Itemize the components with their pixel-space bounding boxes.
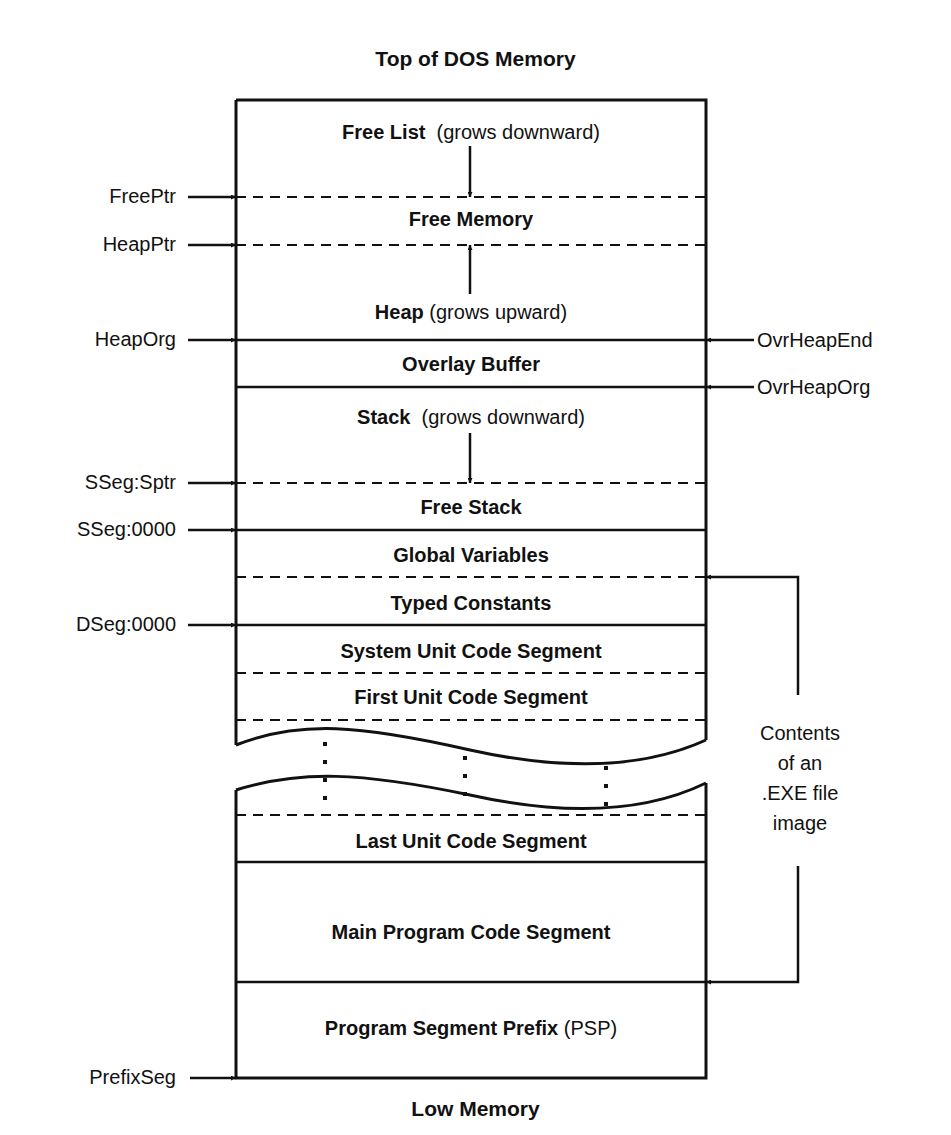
exe-note-line: of an	[730, 748, 870, 778]
pointer-prefixseg: PrefixSeg	[4, 1065, 176, 1089]
lower-break-wave	[236, 776, 706, 808]
pointer-ovrheapend: OvrHeapEnd	[757, 328, 873, 352]
segment-name: Heap	[375, 301, 424, 323]
pointer-dseg-0000: DSeg:0000	[4, 612, 176, 636]
pointer-sseg-0000: SSeg:0000	[4, 517, 176, 541]
segment-main-program-code: Main Program Code Segment	[236, 920, 706, 944]
segment-name: Last Unit Code Segment	[355, 830, 586, 852]
segment-name: First Unit Code Segment	[354, 686, 587, 708]
exe-bracket-top-arrow-icon	[706, 577, 798, 695]
segment-name: Free Memory	[409, 208, 534, 230]
pointer-sseg-sptr: SSeg:Sptr	[4, 470, 176, 494]
pointer-heapptr: HeapPtr	[4, 232, 176, 256]
pointer-freeptr: FreePtr	[4, 184, 176, 208]
segment-name: Typed Constants	[391, 592, 552, 614]
segment-psp: Program Segment Prefix (PSP)	[236, 1016, 706, 1040]
segment-name: System Unit Code Segment	[340, 640, 601, 662]
segment-first-unit-code: First Unit Code Segment	[236, 685, 706, 709]
segment-free-list: Free List (grows downward)	[236, 120, 706, 144]
segment-typed-constants: Typed Constants	[236, 591, 706, 615]
segment-name: Program Segment Prefix	[325, 1017, 558, 1039]
segment-name: Free List	[342, 121, 425, 143]
exe-bracket-bottom-arrow-icon	[706, 866, 798, 982]
segment-note: (grows upward)	[429, 301, 567, 323]
upper-break-wave	[236, 729, 706, 764]
pointer-ovrheaporg: OvrHeapOrg	[757, 375, 870, 399]
memory-map-graphic	[0, 0, 951, 1135]
segment-note: (PSP)	[564, 1017, 617, 1039]
exe-note-line: .EXE file	[730, 778, 870, 808]
segment-overlay-buffer: Overlay Buffer	[236, 352, 706, 376]
segment-free-memory: Free Memory	[236, 207, 706, 231]
segment-name: Stack	[357, 406, 410, 428]
segment-name: Overlay Buffer	[402, 353, 540, 375]
segment-last-unit-code: Last Unit Code Segment	[236, 829, 706, 853]
pointer-heaporg: HeapOrg	[4, 327, 176, 351]
segment-name: Free Stack	[420, 496, 521, 518]
segment-system-unit-code: System Unit Code Segment	[236, 639, 706, 663]
exe-note-line: image	[730, 808, 870, 838]
segment-heap: Heap (grows upward)	[236, 300, 706, 324]
exe-file-image-note: Contents of an .EXE file image	[730, 718, 870, 838]
segment-stack: Stack (grows downward)	[236, 405, 706, 429]
segment-free-stack: Free Stack	[236, 495, 706, 519]
segment-global-variables: Global Variables	[236, 543, 706, 567]
segment-note: (grows downward)	[437, 121, 600, 143]
segment-name: Global Variables	[393, 544, 549, 566]
exe-note-line: Contents	[730, 718, 870, 748]
segment-name: Main Program Code Segment	[332, 921, 611, 943]
segment-note: (grows downward)	[422, 406, 585, 428]
